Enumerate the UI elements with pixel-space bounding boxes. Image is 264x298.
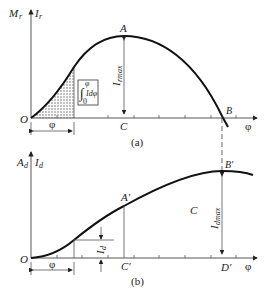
y-label-ir-sub: r — [39, 12, 43, 21]
point-c-prime-label: C' — [121, 260, 131, 272]
interval-label-b: φ — [49, 258, 55, 270]
x-axis-label-b: φ — [245, 260, 251, 272]
integral-body: Idφ — [85, 89, 98, 98]
integral-lower-limit: 0 — [83, 97, 87, 106]
y-label-ad: A — [16, 156, 24, 168]
origin-label-b: O — [20, 253, 28, 265]
point-c-label: C — [120, 120, 128, 132]
point-b-label: B — [226, 105, 232, 116]
irmax-label: I rmax — [110, 65, 124, 87]
y-label-mr: M — [8, 7, 19, 19]
x-axis-label-a: φ — [245, 120, 251, 132]
y-label-ad-sub: d — [24, 161, 29, 170]
caption-a: (a) — [131, 136, 144, 149]
y-label-id-sub: d — [39, 161, 44, 170]
idmax-label: I dmax — [208, 207, 222, 230]
point-d-prime-label: D' — [220, 261, 232, 273]
svg-text:rmax: rmax — [115, 65, 124, 82]
region-c-label: C — [190, 204, 198, 216]
svg-text:dmax: dmax — [213, 207, 222, 225]
integral-upper-limit: φ — [85, 79, 90, 88]
origin-label-a: O — [20, 113, 28, 125]
interval-label-a: φ — [49, 118, 55, 130]
point-b-prime-label: B' — [225, 159, 234, 170]
svg-text:d: d — [99, 245, 108, 250]
shaded-integral-area — [31, 67, 74, 118]
figure-b: A d I d O A' C' B' D' C φ φ I dmax I d (… — [16, 152, 257, 288]
figure-a: ∫ φ 0 Idφ M r I r O A C B φ φ I rmax (a) — [8, 7, 257, 176]
y-label-mr-sub: r — [19, 12, 23, 21]
diagram-canvas: ∫ φ 0 Idφ M r I r O A C B φ φ I rmax (a) — [0, 0, 264, 298]
point-a-prime-label: A' — [120, 191, 131, 203]
id-label: I d — [94, 245, 108, 255]
caption-b: (b) — [131, 275, 144, 288]
point-a-label: A — [119, 22, 127, 34]
